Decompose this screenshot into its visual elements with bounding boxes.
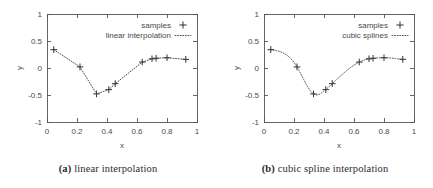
y-tick-label: -1 bbox=[252, 118, 260, 127]
x-tick-label: 0.8 bbox=[378, 127, 390, 136]
caption-a: (a) linear interpolation bbox=[0, 163, 216, 174]
caption-a-tag: (a) bbox=[59, 163, 72, 174]
data-point-marker bbox=[93, 91, 100, 98]
x-tick-label: 0.4 bbox=[101, 127, 113, 136]
data-point-marker bbox=[267, 46, 274, 53]
legend-label: samples bbox=[141, 21, 171, 30]
x-tick-label: 0.2 bbox=[288, 127, 300, 136]
samples-series bbox=[50, 46, 189, 97]
data-point-marker bbox=[370, 55, 377, 62]
data-point-marker bbox=[294, 64, 301, 71]
caption-b-tag: (b) bbox=[262, 163, 275, 174]
data-point-marker bbox=[50, 46, 57, 53]
data-point-marker bbox=[182, 56, 189, 63]
legend-plus-icon bbox=[179, 21, 186, 28]
x-tick-label: 0 bbox=[262, 127, 267, 136]
data-point-marker bbox=[106, 86, 113, 93]
plot-a: 00.20.40.60.81-1-0.500.51xysampleslinear… bbox=[0, 0, 216, 160]
interpolation-curve bbox=[54, 50, 186, 94]
data-point-marker bbox=[164, 54, 171, 61]
x-tick-label: 0 bbox=[45, 127, 50, 136]
caption-b-text: cubic spline interpolation bbox=[278, 163, 389, 174]
y-tick-label: 0.5 bbox=[248, 37, 260, 46]
x-tick-label: 0.6 bbox=[348, 127, 360, 136]
legend-label: cubic splines bbox=[342, 31, 388, 40]
y-axis-label: y bbox=[15, 66, 24, 70]
samples-series bbox=[267, 46, 406, 97]
x-tick-label: 1 bbox=[412, 127, 417, 136]
data-point-marker bbox=[153, 55, 160, 62]
y-tick-label: -0.5 bbox=[28, 91, 42, 100]
data-point-marker bbox=[381, 54, 388, 61]
data-point-marker bbox=[366, 56, 373, 63]
legend-plus-icon bbox=[396, 21, 403, 28]
data-point-marker bbox=[310, 91, 317, 98]
data-point-marker bbox=[149, 56, 156, 63]
figure-panel-a: 00.20.40.60.81-1-0.500.51xysampleslinear… bbox=[0, 0, 216, 188]
legend-label: linear interpolation bbox=[106, 31, 171, 40]
caption-a-text: linear interpolation bbox=[74, 163, 157, 174]
data-point-marker bbox=[139, 59, 146, 66]
figure-panel-b: 00.20.40.60.81-1-0.500.51xysamplescubic … bbox=[217, 0, 433, 188]
x-tick-label: 0.2 bbox=[71, 127, 83, 136]
caption-b: (b) cubic spline interpolation bbox=[217, 163, 433, 174]
y-tick-label: -0.5 bbox=[245, 91, 259, 100]
x-tick-label: 0.4 bbox=[318, 127, 330, 136]
y-tick-label: 1 bbox=[255, 10, 260, 19]
x-axis-label: x bbox=[337, 141, 341, 150]
y-tick-label: -1 bbox=[35, 118, 43, 127]
y-tick-label: 1 bbox=[38, 10, 43, 19]
data-point-marker bbox=[399, 56, 406, 63]
plot-b: 00.20.40.60.81-1-0.500.51xysamplescubic … bbox=[217, 0, 433, 160]
data-point-marker bbox=[356, 59, 363, 66]
data-point-marker bbox=[77, 64, 84, 71]
y-tick-label: 0 bbox=[38, 64, 43, 73]
y-axis-label: y bbox=[232, 66, 241, 70]
interpolation-curve bbox=[271, 50, 403, 95]
legend-label: samples bbox=[358, 21, 388, 30]
y-tick-label: 0 bbox=[255, 64, 260, 73]
figure-container: 00.20.40.60.81-1-0.500.51xysampleslinear… bbox=[0, 0, 433, 188]
x-tick-label: 0.6 bbox=[131, 127, 143, 136]
y-tick-label: 0.5 bbox=[31, 37, 43, 46]
x-tick-label: 0.8 bbox=[161, 127, 173, 136]
x-tick-label: 1 bbox=[195, 127, 200, 136]
x-axis-label: x bbox=[120, 141, 124, 150]
